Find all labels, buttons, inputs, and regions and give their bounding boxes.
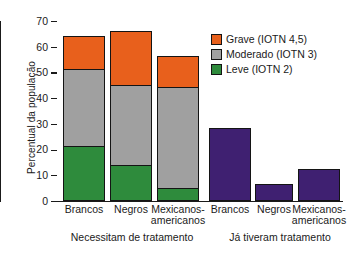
y-tick-40 [51,98,57,99]
bar-segment-moderado [110,85,152,165]
y-tick-70 [51,21,57,22]
stacked-bar-negros-need[interactable] [110,31,152,201]
y-axis-line [0,21,1,202]
y-tick-20 [51,150,57,151]
bar-segment-grave [63,36,105,69]
bar-segment-grave [110,31,152,86]
stacked-bar-mexicanos-need[interactable] [157,56,199,202]
bar-negros-treated[interactable] [255,184,293,202]
group-label-had-treatment: Já tiveram tratamento [215,232,345,244]
y-tick-label-70: 70 [8,16,48,27]
bar-brancos-treated[interactable] [209,128,251,201]
y-tick-60 [51,47,57,48]
y-tick-0 [51,201,57,202]
group-label-need-treatment: Necessitam de tratamento [52,232,212,244]
bar-segment-moderado [157,87,199,188]
chart-container: Percentual da população 70 60 50 40 30 2… [0,0,349,253]
bar-segment-leve [110,165,152,201]
legend-item-leve[interactable]: Leve (IOTN 2) [211,62,317,77]
y-tick-30 [51,124,57,125]
legend-swatch-moderado-icon [211,49,222,60]
legend-label-leve: Leve (IOTN 2) [226,64,293,75]
legend: Grave (IOTN 4,5) Moderado (IOTN 3) Leve … [211,32,317,77]
bar-segment-leve [63,146,105,201]
y-tick-50 [51,72,57,73]
legend-label-moderado: Moderado (IOTN 3) [226,49,317,60]
x-label-mexicanos-need-line2: americanos [146,215,210,227]
y-tick-label-20: 20 [8,144,48,155]
x-label-mexicanos-treated-line2: americanos [287,215,349,227]
bar-mexicanos-treated[interactable] [298,169,340,201]
y-tick-label-0: 0 [8,196,48,207]
y-tick-label-60: 60 [8,42,48,53]
legend-item-grave[interactable]: Grave (IOTN 4,5) [211,32,317,47]
y-tick-label-50: 50 [8,67,48,78]
y-tick-label-40: 40 [8,93,48,104]
legend-swatch-leve-icon [211,64,222,75]
legend-item-moderado[interactable]: Moderado (IOTN 3) [211,47,317,62]
legend-swatch-grave-icon [211,34,222,45]
bar-segment-leve [157,188,199,201]
bar-segment-moderado [63,69,105,147]
y-tick-10 [51,175,57,176]
stacked-bar-brancos-need[interactable] [63,36,105,202]
y-tick-label-10: 10 [8,170,48,181]
bar-segment-grave [157,56,199,87]
legend-label-grave: Grave (IOTN 4,5) [226,34,307,45]
y-tick-label-30: 30 [8,119,48,130]
